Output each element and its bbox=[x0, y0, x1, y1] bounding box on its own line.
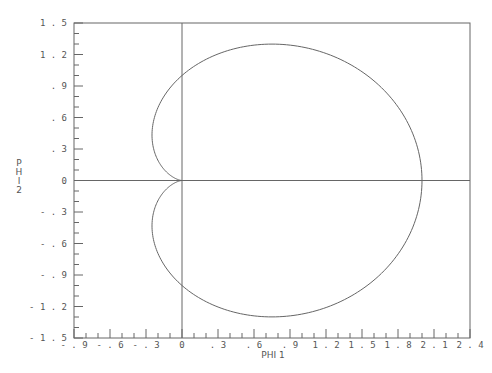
x-axis-ticks: - . 9- . 6- . 30. 3. 6. 91 . 21 . 51 . 8… bbox=[60, 329, 483, 350]
x-tick-label: - . 3 bbox=[132, 340, 159, 350]
reference-lines bbox=[74, 23, 470, 338]
y-tick-label: . 9 bbox=[51, 81, 67, 91]
x-tick-label: 1 . 2 bbox=[312, 340, 339, 350]
x-tick-label: - . 6 bbox=[96, 340, 123, 350]
x-tick-label: 0 bbox=[179, 340, 184, 350]
y-axis-title: PHI2 bbox=[16, 158, 23, 195]
x-tick-label: 2 . 4 bbox=[456, 340, 483, 350]
y-tick-label: - . 6 bbox=[40, 239, 67, 249]
y-tick-label: 1 . 5 bbox=[40, 18, 67, 28]
y-tick-label: . 6 bbox=[51, 113, 67, 123]
x-tick-label: 2 . 1 bbox=[420, 340, 447, 350]
x-tick-label: 1 . 8 bbox=[384, 340, 411, 350]
x-axis-title: PHI 1 bbox=[261, 350, 284, 360]
y-axis-ticks: 1 . 51 . 2. 9. 6. 30- . 3- . 6- . 9- 1 .… bbox=[29, 18, 83, 343]
x-tick-label: . 6 bbox=[246, 340, 262, 350]
x-tick-label: . 9 bbox=[282, 340, 298, 350]
y-tick-label: . 3 bbox=[51, 144, 67, 154]
y-tick-label: - 1 . 5 bbox=[29, 333, 67, 343]
x-tick-label: . 3 bbox=[210, 340, 226, 350]
y-tick-label: - . 3 bbox=[40, 207, 67, 217]
cardioid-chart: - . 9- . 6- . 30. 3. 6. 91 . 21 . 51 . 8… bbox=[0, 0, 492, 373]
y-tick-label: 0 bbox=[62, 176, 67, 186]
y-tick-label: - 1 . 2 bbox=[29, 302, 67, 312]
y-tick-label: - . 9 bbox=[40, 270, 67, 280]
y-tick-label: 1 . 2 bbox=[40, 50, 67, 60]
x-tick-label: 1 . 5 bbox=[348, 340, 375, 350]
y-axis-title-letter: 2 bbox=[16, 185, 22, 195]
